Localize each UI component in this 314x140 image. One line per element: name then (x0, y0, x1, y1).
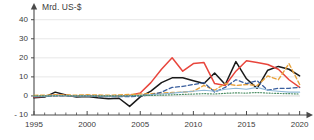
chart-plot-area (0, 0, 313, 140)
y-tick-label: 20 (0, 53, 28, 62)
x-tick-label: 2015 (229, 120, 265, 129)
x-tick-label: 2010 (175, 120, 211, 129)
y-tick-label: 30 (0, 34, 28, 43)
x-tick-label: 1995 (16, 120, 52, 129)
series-line-series-black (34, 62, 300, 107)
y-tick-label: 0 (0, 91, 28, 100)
x-tick-label: 2000 (69, 120, 105, 129)
series-line-series-red (34, 58, 300, 97)
y-axis-arrow (31, 3, 37, 10)
x-axis-arrow (307, 112, 314, 118)
chart-container: Mrd. US-$ - 1001020304019952000200520102… (0, 0, 313, 140)
x-tick-label: 2005 (122, 120, 158, 129)
x-tick-label: 2020 (282, 120, 313, 129)
y-tick-label: - 10 (0, 110, 28, 119)
y-tick-label: 10 (0, 72, 28, 81)
y-tick-label: 40 (0, 15, 28, 24)
